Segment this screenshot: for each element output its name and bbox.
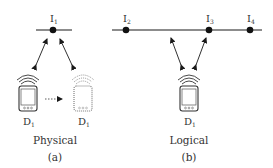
ghost-device-d1-label: D1 [78, 116, 90, 128]
link-arrow-d1-i1 [36, 39, 47, 65]
node-i1-label: I1 [50, 13, 58, 25]
node-i4-label: I4 [247, 13, 255, 25]
node-i4 [247, 27, 254, 34]
panel-a: I1 D1 D1 Physical ( [17, 13, 94, 163]
mobile-device-icon [178, 75, 200, 111]
diagram-canvas: I1 D1 D1 Physical ( [0, 0, 273, 168]
node-i3-label: I3 [206, 13, 214, 25]
device-d1-label: D1 [184, 116, 196, 128]
panel-a-caption: (a) [48, 151, 62, 163]
node-i3 [206, 27, 213, 34]
node-i2-label: I2 [123, 13, 131, 25]
node-i1 [50, 27, 57, 34]
panel-b-title: Logical [170, 134, 210, 146]
panel-b: I2 I3 I4 D1 Logical (b) [112, 13, 262, 163]
panel-b-caption: (b) [182, 151, 197, 163]
node-i2 [123, 27, 130, 34]
device-d1-label: D1 [23, 116, 35, 128]
link-arrow-d1-i3 [196, 38, 206, 65]
mobile-device-ghost-icon [72, 75, 94, 111]
link-arrow-d1-i2 [171, 38, 181, 65]
mobile-device-icon [17, 75, 39, 111]
link-arrow-ghost-i1 [60, 39, 72, 65]
panel-a-title: Physical [33, 134, 78, 146]
